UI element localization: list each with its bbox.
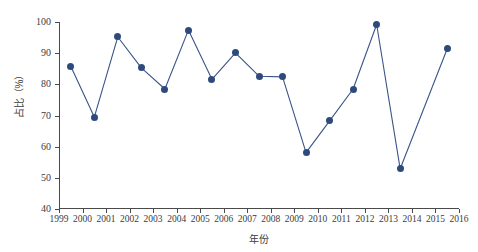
x-axis-tick-label: 2010	[308, 213, 327, 225]
x-axis-tick-label: 2013	[379, 213, 398, 225]
y-axis-tick-label: 60	[41, 139, 51, 154]
x-axis-tick-label: 2011	[332, 213, 351, 225]
x-axis-tick-label: 2016	[450, 213, 469, 225]
x-axis-tick-label: 2014	[402, 213, 421, 225]
data-series-line	[59, 22, 459, 209]
data-point	[67, 63, 74, 70]
data-point	[397, 165, 404, 172]
x-axis-tick-label: 2007	[238, 213, 257, 225]
y-axis-tick-label: 50	[41, 170, 51, 185]
x-axis-tick-label: 1999	[50, 213, 69, 225]
x-axis-tick-label: 2002	[120, 213, 139, 225]
x-axis-tick-label: 2004	[167, 213, 186, 225]
y-axis-tick-label: 70	[41, 108, 51, 123]
data-point	[350, 86, 357, 93]
x-axis-tick-label: 2003	[144, 213, 163, 225]
x-axis-tick-label: 2001	[97, 213, 116, 225]
x-axis-tick-label: 2008	[261, 213, 280, 225]
y-axis-tick-label: 80	[41, 76, 51, 91]
data-point	[161, 86, 168, 93]
x-axis-tick-label: 2005	[191, 213, 210, 225]
y-axis-tick-label: 100	[36, 14, 51, 29]
data-point	[303, 149, 310, 156]
data-point	[91, 114, 98, 121]
y-axis-title: 占比（%）	[11, 70, 26, 119]
line-chart-figure: 占比（%） 年份 405060708090100 199920002001200…	[0, 0, 478, 252]
data-point	[444, 45, 451, 52]
x-axis-tick-label: 2000	[73, 213, 92, 225]
data-point	[185, 27, 192, 34]
x-axis-tick-label: 2012	[355, 213, 374, 225]
data-point	[256, 73, 263, 80]
x-axis-title: 年份	[249, 231, 269, 246]
x-axis-tick-label: 2006	[214, 213, 233, 225]
x-axis-tick-label: 2015	[426, 213, 445, 225]
y-axis-tick-label: 90	[41, 45, 51, 60]
plot-area: 405060708090100 199920002001200220032004…	[59, 22, 459, 209]
x-axis-tick-label: 2009	[285, 213, 304, 225]
